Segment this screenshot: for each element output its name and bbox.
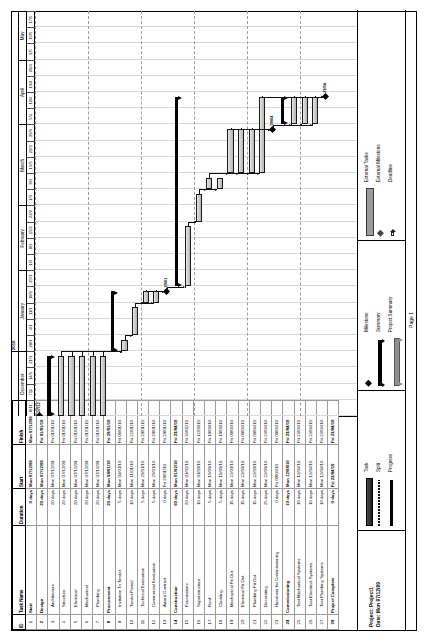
chart-gridline-vertical <box>35 318 357 319</box>
table-row[interactable]: 16Superstructure10 daysMon 01/03/10Fri 1… <box>193 401 204 630</box>
gantt-task-bar[interactable] <box>185 226 191 286</box>
gantt-task-bar[interactable] <box>291 97 297 125</box>
timescale-week-cell: 14/1 <box>27 367 35 383</box>
gantt-task-bar[interactable] <box>217 178 223 190</box>
table-row[interactable]: 22Decorating25 daysMon 22/03/10Fri 23/04… <box>260 401 271 630</box>
gantt-task-bar[interactable] <box>121 340 127 352</box>
gantt-task-bar[interactable] <box>90 356 96 416</box>
gantt-task-bar[interactable] <box>153 291 159 303</box>
cell-id: 2 <box>37 615 48 630</box>
gantt-task-bar[interactable] <box>259 97 265 173</box>
gantt-task-bar[interactable] <box>68 356 74 416</box>
cell-task-name: Project Complete <box>328 526 339 615</box>
gantt-task-bar[interactable] <box>206 178 212 190</box>
table-row[interactable]: 15Foundations20 daysMon 01/02/10Fri 26/0… <box>182 401 193 630</box>
legend-label: Task <box>365 463 370 472</box>
column-header-task-name[interactable]: Task Name <box>13 526 26 615</box>
legend-symbol-split-bar <box>378 480 380 526</box>
table-row[interactable]: 20Electrical Fit Out15 daysMon 22/03/10F… <box>238 401 249 630</box>
gantt-summary-bar[interactable] <box>281 97 285 125</box>
table-row[interactable]: 25Test Mechanical Systems10 daysMon 12/0… <box>294 401 305 630</box>
column-header-duration[interactable]: Duration <box>13 489 26 526</box>
column-header-start[interactable]: Start <box>13 445 26 489</box>
cell-start: Mon 07/12/09 <box>59 445 70 489</box>
cell-duration: 5 days <box>115 489 126 526</box>
table-row[interactable]: 13Award Contract0 daysFri 29/01/10Fri 29… <box>160 401 171 630</box>
gantt-milestone-diamond[interactable] <box>322 93 329 100</box>
table-row[interactable]: 9Invitation To Tender5 daysMon 04/01/10F… <box>115 401 126 630</box>
table-row[interactable]: 28Project Complete0 daysFri 23/04/10Fri … <box>328 401 339 630</box>
gantt-task-bar[interactable] <box>79 356 85 416</box>
gantt-task-bar[interactable] <box>249 129 255 173</box>
gantt-task-bar[interactable] <box>196 194 202 222</box>
cell-id: 26 <box>305 615 316 630</box>
table-row[interactable]: 1Start0 daysMon 07/12/09Mon 07/12/09 <box>26 401 37 630</box>
gantt-task-bar[interactable] <box>238 129 244 173</box>
chart-gridline-horizontal <box>35 11 36 416</box>
cell-start: Mon 04/01/10 <box>104 445 115 489</box>
table-row[interactable]: 19Mechanical Fit Out15 daysMon 22/03/10F… <box>227 401 238 630</box>
table-row[interactable]: 14Construction60 daysMon 01/02/10Fri 23/… <box>171 401 182 630</box>
cell-duration: 0 days <box>160 489 171 526</box>
cell-start: Mon 15/03/10 <box>205 445 216 489</box>
gantt-task-bar[interactable] <box>132 307 138 335</box>
legend-label: External Tasks <box>365 152 370 182</box>
column-header-id[interactable]: ID <box>13 615 26 630</box>
legend-symbol-milestone-diamond <box>365 379 373 387</box>
timescale-week-cell: 1/2 <box>27 254 35 270</box>
cell-duration: 20 days <box>48 489 59 526</box>
cell-duration: 20 days <box>37 489 48 526</box>
table-row[interactable]: 6Mechanical20 daysMon 07/12/09Fri 01/01/… <box>81 401 92 630</box>
table-row[interactable]: 4Structure20 daysMon 07/12/09Fri 01/01/1… <box>59 401 70 630</box>
cell-id: 22 <box>260 615 271 630</box>
table-row[interactable]: 10Tender Period10 daysMon 11/01/10Fri 22… <box>126 401 137 630</box>
table-row[interactable]: 24Commissioning10 daysMon 12/04/10Fri 23… <box>283 401 294 630</box>
timescale-week-cell: 8/2 <box>27 238 35 254</box>
legend-label: Progress <box>389 454 394 472</box>
table-row[interactable]: 5Electrical20 daysMon 07/12/09Fri 01/01/… <box>70 401 81 630</box>
table-row[interactable]: 2Design20 daysMon 07/12/09Fri 01/01/10 <box>37 401 48 630</box>
gantt-task-bar[interactable] <box>58 356 64 416</box>
gantt-summary-bar[interactable] <box>47 356 51 416</box>
cell-id: 25 <box>294 615 305 630</box>
table-row[interactable]: 21Plumbing Fit Out15 daysMon 22/03/10Fri… <box>249 401 260 630</box>
timescale-year-cell: 2010 <box>12 11 19 351</box>
gantt-summary-bar[interactable] <box>111 291 115 351</box>
dependency-link-horizontal <box>93 352 94 355</box>
cell-id: 6 <box>81 615 92 630</box>
timescale-week-cell: 22/2 <box>27 205 35 221</box>
table-row[interactable]: 12Commercial Evaluation5 daysMon 25/01/1… <box>149 401 160 630</box>
cell-id: 17 <box>205 615 216 630</box>
cell-duration: 25 days <box>260 489 271 526</box>
gantt-task-bar[interactable] <box>143 291 149 303</box>
timescale-week-cell: 10/5 <box>27 27 35 43</box>
cell-start: Mon 01/03/10 <box>193 445 204 489</box>
cell-id: 1 <box>26 615 37 630</box>
table-row[interactable]: 3Architecture20 daysMon 07/12/09Fri 01/0… <box>48 401 59 630</box>
dependency-link-horizontal <box>125 336 126 339</box>
gantt-task-bar[interactable] <box>302 97 308 125</box>
cell-id: 20 <box>238 615 249 630</box>
table-row[interactable]: 26Test Electrical Systems10 daysMon 12/0… <box>305 401 316 630</box>
cell-start: Mon 22/03/10 <box>238 445 249 489</box>
cell-start: Mon 07/12/09 <box>70 445 81 489</box>
table-row[interactable]: 17Roof5 daysMon 15/03/10Fri 19/03/10 <box>205 401 216 630</box>
gantt-summary-bar[interactable] <box>175 97 179 287</box>
table-row[interactable]: 11Technical Evaluation5 daysMon 25/01/10… <box>137 401 148 630</box>
table-row[interactable]: 23Handover for Commissioning0 daysFri 09… <box>272 401 283 630</box>
dependency-arrow-icon <box>183 286 185 288</box>
cell-id: 15 <box>182 615 193 630</box>
cell-start: Mon 15/03/10 <box>216 445 227 489</box>
legend-symbol-external-task-bar <box>366 188 374 236</box>
timescale-week-cell: 29/3 <box>27 124 35 140</box>
gantt-task-bar[interactable] <box>100 356 106 416</box>
gantt-task-bar[interactable] <box>227 129 233 173</box>
legend-label: Milestone <box>365 312 370 332</box>
gantt-task-bar[interactable] <box>312 97 318 125</box>
cell-start: Mon 07/12/09 <box>81 445 92 489</box>
cell-duration: 15 days <box>227 489 238 526</box>
table-row[interactable]: 7Plumbing20 daysMon 07/12/09Fri 01/01/10 <box>93 401 104 630</box>
table-row[interactable]: 27Test Plumbing Systems10 daysMon 12/04/… <box>316 401 327 630</box>
table-row[interactable]: 8Procurement20 daysMon 04/01/10Fri 29/01… <box>104 401 115 630</box>
table-row[interactable]: 18Cladding5 daysMon 15/03/10Fri 19/03/10 <box>216 401 227 630</box>
